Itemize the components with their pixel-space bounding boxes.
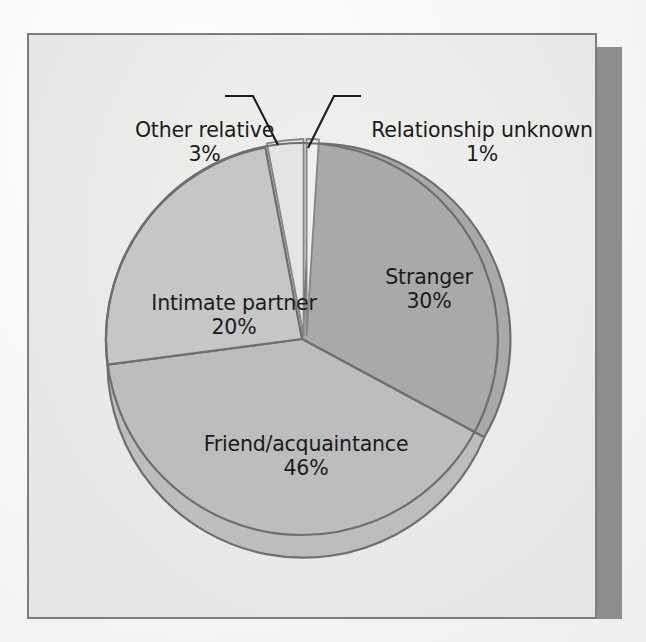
figure-frame: Other relative 3% Relationship unknown 1…	[27, 33, 597, 619]
pie-chart: Other relative 3% Relationship unknown 1…	[29, 35, 595, 617]
pie-label-other-relative-value: 3%	[107, 143, 302, 167]
pie-label-stranger-value: 30%	[359, 290, 499, 314]
pie-label-friend-acquaintance: Friend/acquaintance 46%	[181, 433, 431, 481]
pie-label-intimate-partner: Intimate partner 20%	[128, 292, 340, 340]
pie-label-relationship-unknown: Relationship unknown 1%	[348, 119, 616, 167]
pie-label-stranger: Stranger 30%	[359, 266, 499, 314]
pie-label-intimate-partner-value: 20%	[128, 316, 340, 340]
pie-label-friend-acquaintance-name: Friend/acquaintance	[181, 433, 431, 457]
pie-label-stranger-name: Stranger	[359, 266, 499, 290]
pie-label-intimate-partner-name: Intimate partner	[128, 292, 340, 316]
pie-label-relationship-unknown-name: Relationship unknown	[348, 119, 616, 143]
pie-label-friend-acquaintance-value: 46%	[181, 457, 431, 481]
pie-label-other-relative: Other relative 3%	[107, 119, 302, 167]
pie-label-relationship-unknown-value: 1%	[348, 143, 616, 167]
scanned-page-background: Other relative 3% Relationship unknown 1…	[0, 0, 646, 642]
pie-label-other-relative-name: Other relative	[107, 119, 302, 143]
